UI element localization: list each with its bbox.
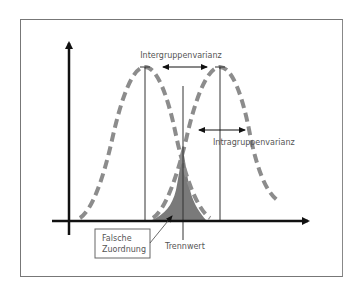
misclassification-label-line2: Zuordnung: [102, 245, 146, 254]
threshold-label: Trennwert: [164, 242, 205, 251]
intragroup-variance-label: Intragruppenvarianz: [213, 138, 295, 147]
misclassification-label-line1: Falsche: [102, 234, 132, 243]
discriminant-diagram: Intergruppenvarianz Intragruppenvarianz …: [0, 0, 359, 296]
intergroup-variance-label: Intergruppenvarianz: [140, 51, 222, 60]
